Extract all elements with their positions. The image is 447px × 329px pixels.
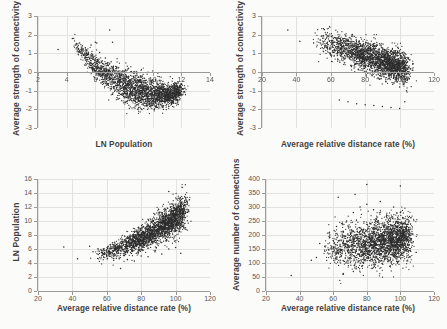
x-axis-line — [38, 291, 210, 292]
y-axis-tick-label: 2 — [228, 31, 256, 39]
y-axis-tick — [34, 179, 37, 180]
x-axis-tick-label: 8 — [110, 76, 138, 84]
x-axis-tick-label: 40 — [282, 76, 310, 84]
y-axis-tick-label: 0 — [4, 68, 32, 76]
y-axis-tick — [262, 291, 265, 292]
y-axis-tick-label: 350 — [232, 189, 260, 197]
scatterplot-figure: Average strength of connectivity LN Popu… — [0, 0, 447, 329]
y-axis-tick — [262, 277, 265, 278]
x-axis-tick-label: 60 — [317, 76, 345, 84]
x-axis-tick-label: 100 — [386, 76, 414, 84]
x-axis-tick-label: 80 — [127, 295, 155, 303]
y-axis-tick-label: 14 — [4, 189, 32, 197]
y-axis-tick — [262, 179, 265, 180]
x-axis-tick-label: 6 — [81, 76, 109, 84]
y-axis-tick-label: 2 — [4, 273, 32, 281]
x-axis-line — [266, 291, 434, 292]
y-axis-tick-label: 4 — [4, 259, 32, 267]
x-axis-tick-label: 20 — [252, 295, 280, 303]
y-axis-tick — [258, 128, 261, 129]
y-axis-tick — [262, 249, 265, 250]
y-axis-tick — [34, 72, 37, 73]
y-axis-tick — [34, 221, 37, 222]
y-axis-tick — [262, 263, 265, 264]
y-axis-tick — [262, 207, 265, 208]
y-axis-tick-label: 50 — [232, 273, 260, 281]
x-axis-tick-label: 80 — [353, 295, 381, 303]
y-axis-tick-label: 200 — [232, 231, 260, 239]
y-axis-tick — [34, 109, 37, 110]
x-axis-tick-label: 14 — [196, 76, 224, 84]
chart-panel-bottom-right: Average number of connections Average re… — [224, 165, 447, 329]
y-axis-tick-label: -2 — [228, 105, 256, 113]
y-axis-tick — [258, 109, 261, 110]
plot-area — [38, 179, 210, 291]
y-axis-tick — [34, 263, 37, 264]
scatter-points-canvas — [38, 179, 210, 291]
chart-panel-top-right: Average strength of connectivity Average… — [224, 0, 447, 164]
y-axis-tick-label: -3 — [228, 124, 256, 132]
x-axis-tick-label: 10 — [139, 76, 167, 84]
y-axis-tick-label: 250 — [232, 217, 260, 225]
y-axis-tick-label: 2 — [4, 31, 32, 39]
y-axis-tick — [34, 249, 37, 250]
chart-panel-bottom-left: LN Population Average relative distance … — [0, 165, 223, 329]
y-axis-tick-label: 0 — [232, 287, 260, 295]
y-axis-tick-label: 100 — [232, 259, 260, 267]
x-axis-tick-label: 20 — [248, 76, 276, 84]
y-axis-tick-label: 1 — [4, 49, 32, 57]
x-axis-title: Average relative distance rate (%) — [254, 304, 442, 313]
x-axis-tick-label: 40 — [286, 295, 314, 303]
y-axis-tick — [34, 16, 37, 17]
y-axis-tick-label: 12 — [4, 203, 32, 211]
y-axis-tick — [262, 235, 265, 236]
x-axis-title: Average relative distance rate (%) — [30, 304, 218, 313]
y-axis-tick — [34, 193, 37, 194]
y-axis-tick-label: 16 — [4, 175, 32, 183]
y-axis-tick-label: 3 — [4, 12, 32, 20]
y-axis-tick-label: 6 — [4, 245, 32, 253]
y-axis-tick-label: 3 — [228, 12, 256, 20]
x-axis-tick-label: 60 — [319, 295, 347, 303]
y-axis-tick-label: 10 — [4, 217, 32, 225]
y-axis-line — [265, 179, 266, 291]
y-axis-tick — [262, 221, 265, 222]
y-axis-tick-label: -1 — [4, 87, 32, 95]
y-axis-tick — [258, 72, 261, 73]
y-axis-tick — [34, 235, 37, 236]
y-axis-tick — [258, 16, 261, 17]
x-axis-title: Average relative distance rate (%) — [254, 140, 442, 149]
x-axis-title: LN Population — [38, 140, 210, 149]
x-axis-tick-label: 80 — [351, 76, 379, 84]
y-axis-tick — [258, 35, 261, 36]
x-axis-tick-label: 2 — [24, 76, 52, 84]
x-axis-tick-label: 4 — [53, 76, 81, 84]
x-axis-line — [262, 72, 434, 73]
y-axis-tick-label: 0 — [4, 287, 32, 295]
y-axis-tick — [34, 35, 37, 36]
y-axis-tick-label: -3 — [4, 124, 32, 132]
y-axis-tick-label: -2 — [4, 105, 32, 113]
x-axis-tick-label: 120 — [196, 295, 224, 303]
y-axis-tick-label: -1 — [228, 87, 256, 95]
y-axis-tick-label: 8 — [4, 231, 32, 239]
y-axis-tick — [34, 91, 37, 92]
scatter-points-canvas — [266, 179, 434, 291]
x-axis-tick-label: 20 — [24, 295, 52, 303]
y-axis-tick-label: 1 — [228, 49, 256, 57]
y-axis-tick — [258, 91, 261, 92]
chart-panel-top-left: Average strength of connectivity LN Popu… — [0, 0, 223, 164]
y-axis-tick-label: 400 — [232, 175, 260, 183]
x-axis-tick-label: 120 — [420, 295, 447, 303]
plot-area — [266, 179, 434, 291]
y-axis-line — [37, 179, 38, 291]
y-axis-tick — [34, 291, 37, 292]
y-axis-tick — [34, 207, 37, 208]
y-axis-tick — [258, 53, 261, 54]
y-axis-tick — [34, 277, 37, 278]
y-axis-tick — [262, 193, 265, 194]
x-axis-tick-label: 60 — [93, 295, 121, 303]
y-axis-tick-label: 0 — [228, 68, 256, 76]
y-axis-tick-label: 300 — [232, 203, 260, 211]
x-axis-tick-label: 120 — [420, 76, 447, 84]
